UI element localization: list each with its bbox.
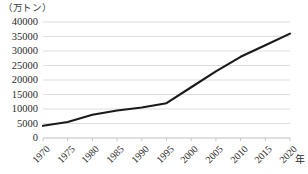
x-axis-unit-label: 年 <box>295 155 305 165</box>
x-axis-tick-labels: 1970197519801985199019952000200520102015… <box>0 0 308 174</box>
line-chart: （万トン） 4000035000300002500020000150001000… <box>0 0 308 174</box>
